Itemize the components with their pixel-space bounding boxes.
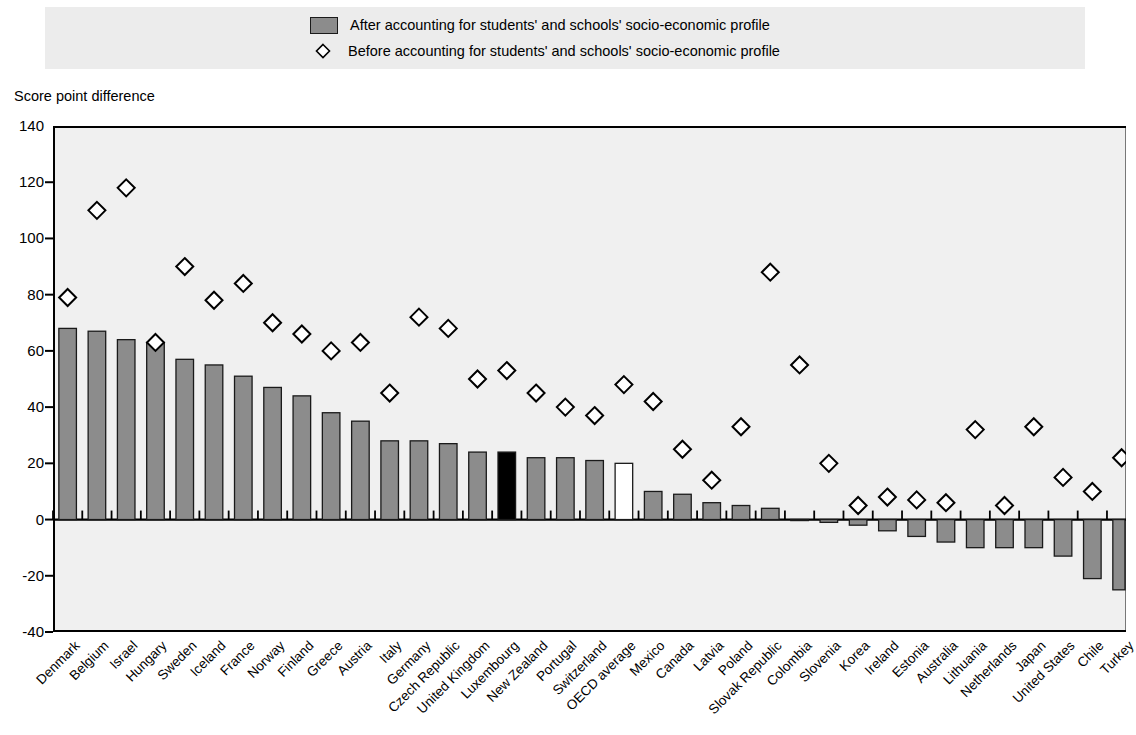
chart-root: After accounting for students' and schoo… <box>0 0 1126 735</box>
x-axis-tick-labels: DenmarkBelgiumIsraelHungarySwedenIceland… <box>0 0 1126 735</box>
